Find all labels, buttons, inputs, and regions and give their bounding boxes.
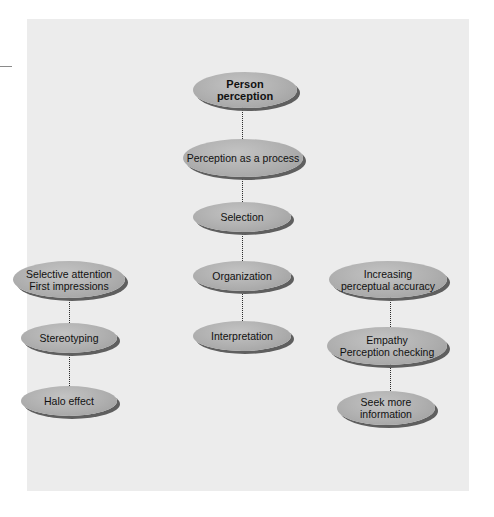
diagram-panel: Person perception Perception as a proces… xyxy=(27,19,469,491)
node-label: Selective attention xyxy=(26,268,112,280)
connector-process-selection xyxy=(242,176,243,204)
node-label: Perception as a process xyxy=(187,152,300,164)
node-seek-more-information: Seek more information xyxy=(337,391,435,425)
connector-right-2-3 xyxy=(390,363,391,393)
connector-right-1-2 xyxy=(390,297,391,329)
node-perception-as-a-process: Perception as a process xyxy=(183,139,303,177)
node-label: Increasing xyxy=(341,268,435,280)
margin-rule xyxy=(0,66,12,67)
connector-left-2-3 xyxy=(69,352,70,388)
connector-organization-interpretation xyxy=(242,290,243,323)
connector-root-process xyxy=(242,107,243,141)
connector-left-1-2 xyxy=(69,297,70,325)
node-label: Selection xyxy=(220,211,263,223)
node-label: Seek more xyxy=(360,396,412,408)
node-label: Interpretation xyxy=(211,330,273,342)
node-interpretation: Interpretation xyxy=(193,321,291,351)
node-label: Empathy xyxy=(340,334,435,346)
node-label: Stereotyping xyxy=(40,332,99,344)
node-stereotyping: Stereotyping xyxy=(21,323,117,353)
node-person-perception: Person perception xyxy=(193,72,297,108)
node-label: Perception checking xyxy=(340,346,435,358)
node-label: perceptual accuracy xyxy=(341,280,435,292)
node-organization: Organization xyxy=(193,261,291,291)
connector-selection-organization xyxy=(242,231,243,263)
node-selective-attention-first-impressions: Selective attention First impressions xyxy=(13,261,125,298)
node-empathy-perception-checking: Empathy Perception checking xyxy=(327,327,447,365)
node-label: First impressions xyxy=(26,280,112,292)
node-increasing-perceptual-accuracy: Increasing perceptual accuracy xyxy=(329,261,447,298)
node-label: information xyxy=(360,408,412,420)
node-label: Organization xyxy=(212,270,272,282)
node-selection: Selection xyxy=(193,202,291,232)
node-halo-effect: Halo effect xyxy=(21,386,117,416)
node-label: Halo effect xyxy=(44,395,94,407)
node-label: perception xyxy=(217,90,273,102)
node-label: Person xyxy=(217,78,273,90)
